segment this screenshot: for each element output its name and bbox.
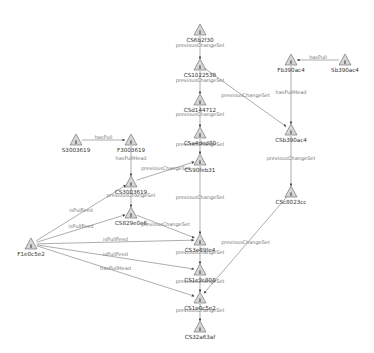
node-label: CSb390ac4 [275, 137, 307, 143]
node-glyph-icon: I [130, 181, 132, 187]
node-glyph-icon: I [199, 29, 201, 35]
node-glyph-icon: I [30, 243, 32, 249]
node-glyph-icon: I [199, 269, 201, 275]
edge-label: hasPullHead [100, 265, 131, 271]
node-glyph-icon: I [199, 132, 201, 138]
node-glyph-icon: I [199, 99, 201, 105]
node-label: CS32a63af [185, 334, 217, 340]
graph-node[interactable]: ICS32a63af [185, 321, 217, 340]
node-glyph-icon: I [130, 139, 132, 145]
edge-label: isPullFeed [103, 236, 128, 242]
edge[interactable] [137, 215, 195, 238]
graph-node[interactable]: ICSc8023cc [276, 186, 307, 205]
graph-node[interactable]: IF3003619 [117, 134, 146, 153]
node-label: Sb390ac4 [331, 67, 359, 73]
node-label: CSc8023cc [276, 199, 307, 205]
node-glyph-icon: I [290, 59, 292, 65]
node-label: CS3e89fe4 [185, 247, 216, 253]
edge-label: previousChangeSet [141, 165, 190, 172]
edge-label: previousChangeSet [267, 155, 316, 162]
edge-label: hasPullHead [116, 155, 147, 161]
node-label: S3003619 [62, 147, 91, 153]
graph-node[interactable]: IFb390ac4 [277, 54, 305, 73]
node-glyph-icon: I [290, 129, 292, 135]
node-label: CS6b2f30 [186, 37, 214, 43]
graph-node[interactable]: ICSa4ded80 [184, 127, 217, 146]
edge-label: isPullFeed [103, 251, 128, 257]
graph-node[interactable]: ICS3003619 [115, 176, 148, 195]
node-label: F3003619 [117, 147, 146, 153]
edge-label: hasPullHead [276, 89, 307, 95]
node-label: CS3003619 [115, 189, 148, 195]
edge-label: isPullFeed [69, 223, 94, 229]
edge-label: previousChangeSet [141, 221, 190, 228]
node-label: CS90feb31 [185, 167, 216, 173]
graph-node[interactable]: ICS1e0c5e2 [184, 292, 216, 311]
graph-node[interactable]: ICSb390ac4 [275, 124, 307, 143]
graph-node[interactable]: ICS1c2c808 [184, 264, 216, 283]
edge-label: previousChangeSet [176, 194, 225, 201]
node-label: Fb390ac4 [277, 67, 305, 73]
node-label: F1e0c5e2 [17, 251, 44, 257]
node-glyph-icon: I [344, 59, 346, 65]
edge-label: previousChangeSet [221, 92, 270, 99]
edge-label: hasPull [309, 54, 327, 60]
node-label: CS829e0e6 [115, 220, 148, 226]
node-glyph-icon: I [290, 191, 292, 197]
node-label: CSa4ded80 [184, 140, 217, 146]
graph-canvas: previousChangeSetpreviousChangeSetprevio… [0, 0, 374, 353]
node-glyph-icon: I [75, 139, 77, 145]
edge[interactable] [36, 185, 126, 241]
node-glyph-icon: I [199, 297, 201, 303]
edge-label: hasPull [95, 134, 113, 140]
graph-node[interactable]: ISb390ac4 [331, 54, 359, 73]
node-glyph-icon: I [199, 326, 201, 332]
node-label: CS1022538 [184, 72, 217, 78]
node-glyph-icon: I [130, 212, 132, 218]
edge-label: isPulFeed [69, 207, 92, 213]
node-label: CSd144712 [184, 107, 216, 113]
node-label: CS1c2c808 [184, 277, 216, 283]
graph-node[interactable]: ICS6b2f30 [186, 24, 214, 43]
nodes-layer: ICS6b2f30ICS1022538ICSd144712ICSa4ded80I… [17, 24, 359, 340]
node-glyph-icon: I [199, 239, 201, 245]
graph-node[interactable]: ICS3e89fe4 [185, 234, 216, 253]
graph-node[interactable]: IS3003619 [62, 134, 91, 153]
node-glyph-icon: I [199, 64, 201, 70]
edge[interactable] [205, 68, 286, 126]
edge-label: previousChangeSet [221, 239, 270, 246]
graph-node[interactable]: ICSd144712 [184, 94, 216, 113]
graph-node[interactable]: ICS1022538 [184, 59, 217, 78]
node-label: CS1e0c5e2 [184, 305, 216, 311]
node-glyph-icon: I [199, 159, 201, 165]
